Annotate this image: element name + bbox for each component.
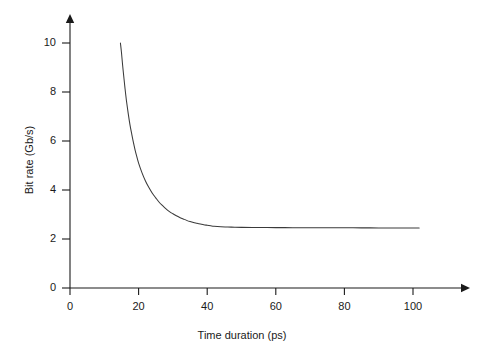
x-axis-arrow-icon: [461, 284, 470, 292]
x-tick-label: 100: [404, 300, 422, 312]
x-tick-label: 60: [270, 300, 282, 312]
y-axis-title: Bit rate (Gb/s): [23, 126, 35, 194]
y-tick-label: 4: [50, 183, 56, 195]
y-axis-ticks: 0246810: [44, 36, 70, 293]
y-tick-label: 2: [50, 232, 56, 244]
x-tick-label: 20: [132, 300, 144, 312]
x-tick-label: 80: [338, 300, 350, 312]
data-series-line: [120, 43, 419, 228]
x-tick-label: 40: [201, 300, 213, 312]
x-axis-ticks: 020406080100: [67, 288, 422, 312]
x-axis-title: Time duration (ps): [198, 329, 287, 341]
y-tick-label: 8: [50, 85, 56, 97]
x-tick-label: 0: [67, 300, 73, 312]
y-tick-label: 6: [50, 134, 56, 146]
line-chart-canvas: 020406080100 0246810 Time duration (ps) …: [0, 0, 485, 353]
y-tick-label: 0: [50, 281, 56, 293]
chart-figure: 020406080100 0246810 Time duration (ps) …: [0, 0, 485, 353]
y-axis-arrow-icon: [66, 14, 74, 23]
y-tick-label: 10: [44, 36, 56, 48]
